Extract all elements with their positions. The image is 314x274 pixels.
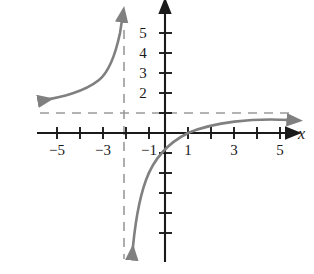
x-tick-label--1: −1 bbox=[134, 143, 164, 158]
x-axis-label: x bbox=[298, 126, 305, 142]
curve-right-branch bbox=[132, 120, 289, 258]
x-tick-label-1: 1 bbox=[176, 143, 200, 158]
graph-figure: −5 −3 −1 1 3 5 5 4 3 2 x bbox=[0, 0, 314, 274]
y-tick-label-3: 3 bbox=[133, 66, 153, 81]
y-tick-label-2: 2 bbox=[133, 86, 153, 101]
x-tick-label--5: −5 bbox=[42, 143, 72, 158]
x-tick-label-3: 3 bbox=[222, 143, 246, 158]
y-tick-label-4: 4 bbox=[133, 46, 153, 61]
coordinate-plane bbox=[0, 0, 314, 274]
curve-left-branch bbox=[40, 20, 122, 101]
y-tick-label-5: 5 bbox=[133, 26, 153, 41]
x-tick-label--3: −3 bbox=[88, 143, 118, 158]
x-tick-label-5: 5 bbox=[268, 143, 292, 158]
